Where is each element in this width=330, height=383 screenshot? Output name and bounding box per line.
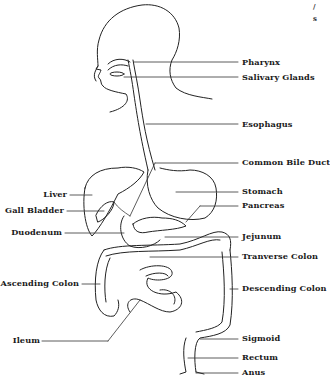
label-rectum: Rectum bbox=[242, 352, 278, 362]
label-stomach: Stomach bbox=[242, 186, 283, 196]
stomach-outline bbox=[147, 168, 216, 220]
label-pancreas: Pancreas bbox=[242, 200, 284, 210]
label-esophagus: Esophagus bbox=[242, 119, 292, 129]
label-ileum: Ileum bbox=[13, 335, 40, 345]
label-pharynx: Pharynx bbox=[242, 57, 280, 67]
label-liver: Liver bbox=[43, 189, 67, 199]
duodenum bbox=[121, 216, 160, 248]
esophagus-tube bbox=[128, 60, 148, 170]
palate bbox=[108, 59, 130, 64]
corner-fragment-1: / bbox=[313, 2, 316, 11]
pancreas-shape bbox=[133, 217, 186, 232]
label-salivary-glands: Salivary Glands bbox=[242, 72, 315, 82]
label-ascending-colon: Ascending Colon bbox=[1, 278, 79, 288]
ascending-colon bbox=[95, 250, 119, 316]
label-descending-colon: Descending Colon bbox=[242, 283, 327, 293]
label-gall-bladder: Gall Bladder bbox=[5, 205, 64, 215]
salivary-gland-shape bbox=[110, 72, 124, 76]
corner-fragment-2: s bbox=[313, 14, 317, 23]
label-sigmoid: Sigmoid bbox=[242, 333, 280, 343]
head-outline bbox=[94, 5, 212, 99]
label-jejunum: Jejunum bbox=[242, 231, 281, 241]
label-duodenum: Duodenum bbox=[11, 227, 62, 237]
label-anus: Anus bbox=[242, 367, 265, 377]
label-common-bile-duct: Common Bile Duct bbox=[242, 157, 330, 167]
label-tranverse-colon: Tranverse Colon bbox=[242, 251, 318, 261]
descending-colon bbox=[195, 250, 233, 372]
rectum bbox=[180, 338, 186, 374]
